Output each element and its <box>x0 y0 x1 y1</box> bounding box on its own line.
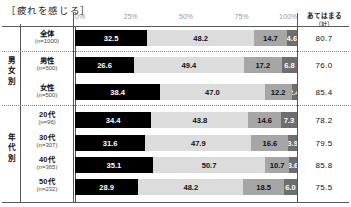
bar-segment-3: 17.2 <box>244 57 282 73</box>
bar-segment-value: 32.5 <box>104 34 119 43</box>
row-category-name: 30代 <box>22 134 72 142</box>
bar-segment-value: 26.6 <box>97 61 112 70</box>
group-label-age: 年 代 別 <box>3 133 20 164</box>
row-total-value: 78.2 <box>299 116 349 125</box>
bar-segment-value: 38.4 <box>110 88 125 97</box>
x-axis: 0% 25% 50% 75% 100% <box>75 13 297 26</box>
divider-bottom <box>2 202 349 203</box>
axis-tick-100: 100% <box>279 13 297 20</box>
row-total-value: 85.4 <box>299 88 349 97</box>
bar-segment-value: 14.7 <box>263 34 278 43</box>
row-total-value: 79.5 <box>299 139 349 148</box>
row-category-label: 30代(n=307) <box>22 134 72 149</box>
row-category-name: 全体 <box>22 30 72 38</box>
bar-segment-value: 10.7 <box>270 161 285 170</box>
bar-segment-value: 34.4 <box>106 116 121 125</box>
row-category-label: 女性(n=500) <box>22 84 72 99</box>
bar-segment-1: 32.5 <box>75 30 147 46</box>
row-sample-size: (n=307) <box>22 142 72 149</box>
bar-segment-value: 18.5 <box>256 183 271 192</box>
bar-segment-4: 4.6 <box>287 30 297 46</box>
stacked-bar: 34.443.814.67.3 <box>75 112 297 128</box>
row-category-name: 20代 <box>22 111 72 119</box>
bar-segment-3: 14.7 <box>254 30 287 46</box>
group-label-age-c2: 別 <box>3 154 20 164</box>
bar-segment-value: 48.2 <box>183 183 198 192</box>
row-category-label: 20代(n=96) <box>22 111 72 126</box>
bar-segment-value: 4.6 <box>287 34 297 43</box>
divider-gender-age <box>2 105 349 106</box>
row-sample-size: (n=96) <box>22 119 72 126</box>
bar-segment-value: 6.0 <box>285 183 296 192</box>
row-sample-size: (n=1000) <box>22 38 72 45</box>
axis-tick-25: 25% <box>123 13 137 20</box>
row-category-name: 女性 <box>22 84 72 92</box>
bar-segment-value: 50.7 <box>202 161 217 170</box>
stacked-bar: 26.649.417.26.8 <box>75 57 297 73</box>
axis-tick-75: 75% <box>234 13 248 20</box>
bar-segment-2: 50.7 <box>153 157 265 173</box>
bar-segment-1: 34.4 <box>75 112 151 128</box>
group-label-gender: 男 女 別 <box>3 56 20 87</box>
axis-tick-0: 0% <box>75 13 85 20</box>
bar-segment-3: 12.2 <box>265 84 292 100</box>
row-sample-size: (n=232) <box>22 186 72 193</box>
bar-segment-2: 47.0 <box>160 84 264 100</box>
row-category-label: 全体(n=1000) <box>22 30 72 45</box>
stacked-bar: 38.447.012.22.4 <box>75 84 297 100</box>
stacked-bar-chart: ［疲れを感じる］ 0% 25% 50% 75% 100% あてはまる （計） 男… <box>0 0 351 207</box>
bar-segment-value: 16.6 <box>263 139 278 148</box>
group-label-gender-c2: 別 <box>3 77 20 87</box>
bar-segment-value: 17.2 <box>255 61 270 70</box>
row-category-label: 50代(n=232) <box>22 178 72 193</box>
bar-segment-4: 3.9 <box>288 135 297 151</box>
bar-segment-value: 6.8 <box>284 61 295 70</box>
row-category-name: 40代 <box>22 156 72 164</box>
bar-segment-value: 2.4 <box>292 88 297 97</box>
row-sample-size: (n=365) <box>22 164 72 171</box>
divider-row-0-1 <box>2 51 349 52</box>
group-label-age-c0: 年 <box>3 133 20 143</box>
group-label-age-c1: 代 <box>3 143 20 153</box>
bar-segment-4: 6.8 <box>282 57 297 73</box>
row-total-value: 85.8 <box>299 161 349 170</box>
bar-segment-4: 6.0 <box>284 179 297 195</box>
right-column-header: あてはまる （計） <box>299 12 349 27</box>
axis-tick-50: 50% <box>179 13 193 20</box>
stacked-bar: 28.948.218.56.0 <box>75 179 297 195</box>
row-category-label: 男性(n=500) <box>22 57 72 72</box>
bar-segment-value: 48.2 <box>193 34 208 43</box>
row-sample-size: (n=500) <box>22 65 72 72</box>
bar-segment-3: 10.7 <box>265 157 289 173</box>
row-category-name: 50代 <box>22 178 72 186</box>
bar-segment-value: 47.9 <box>191 139 206 148</box>
stacked-bar: 35.150.710.73.6 <box>75 157 297 173</box>
bar-segment-1: 35.1 <box>75 157 153 173</box>
row-category-name: 男性 <box>22 57 72 65</box>
bar-segment-1: 38.4 <box>75 84 160 100</box>
bar-segment-value: 3.6 <box>289 161 297 170</box>
bar-segment-2: 47.9 <box>145 135 251 151</box>
bar-segment-value: 12.2 <box>271 88 286 97</box>
bar-segment-value: 43.8 <box>192 116 207 125</box>
right-column-header-line1: あてはまる <box>299 12 349 20</box>
bar-segment-value: 49.4 <box>181 61 196 70</box>
bar-segment-2: 48.2 <box>147 30 254 46</box>
bar-segment-4: 3.6 <box>289 157 297 173</box>
row-category-label: 40代(n=365) <box>22 156 72 171</box>
bar-segment-value: 3.9 <box>288 139 297 148</box>
bar-segment-3: 18.5 <box>243 179 283 195</box>
stacked-bar: 32.548.214.74.6 <box>75 30 297 46</box>
bar-segment-2: 49.4 <box>134 57 244 73</box>
axis-line-right <box>297 13 298 202</box>
bar-segment-value: 7.3 <box>284 116 295 125</box>
bar-segment-1: 26.6 <box>75 57 134 73</box>
bar-segment-3: 16.6 <box>251 135 288 151</box>
row-total-value: 76.0 <box>299 61 349 70</box>
bar-segment-2: 43.8 <box>151 112 248 128</box>
row-total-value: 80.7 <box>299 34 349 43</box>
bar-segment-4: 2.4 <box>292 84 297 100</box>
stacked-bar: 31.647.916.63.9 <box>75 135 297 151</box>
bar-segment-value: 31.6 <box>103 139 118 148</box>
divider-top <box>2 26 349 27</box>
